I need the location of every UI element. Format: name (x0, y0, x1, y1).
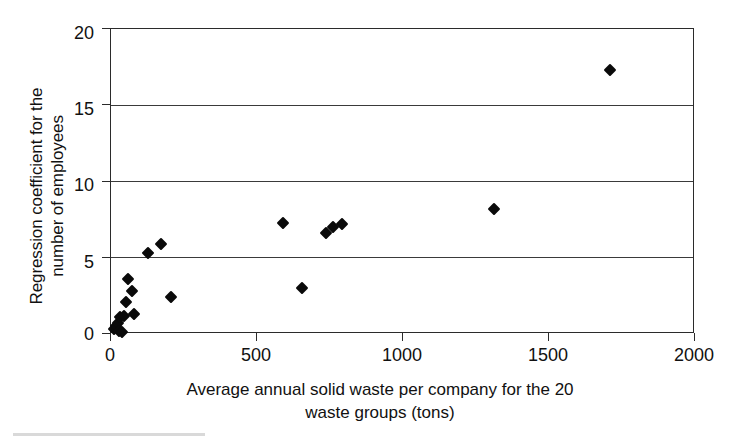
x-tick-label: 1000 (362, 346, 442, 364)
data-point-marker (126, 285, 139, 298)
data-point-marker (604, 64, 617, 77)
y-tick-mark (102, 28, 110, 29)
x-tick-label: 0 (70, 346, 150, 364)
x-tick-label: 1500 (508, 346, 588, 364)
x-axis-title: Average annual solid waste per company f… (60, 378, 700, 424)
x-tick-label: 2000 (654, 346, 734, 364)
data-point-marker (127, 308, 140, 321)
y-tick-label: 20 (36, 24, 94, 42)
scan-artifact (13, 433, 205, 436)
data-point-marker (487, 203, 500, 216)
x-tick-label: 500 (216, 346, 296, 364)
data-point-marker (120, 296, 133, 309)
scatter-chart-figure: Regression coefficient for the number of… (0, 0, 739, 440)
gridline-y10 (111, 181, 693, 182)
y-tick-mark (102, 257, 110, 258)
x-tick-mark (402, 333, 403, 341)
y-tick-label: 10 (36, 176, 94, 194)
data-point-marker (155, 238, 168, 251)
y-tick-mark (102, 104, 110, 105)
y-tick-mark (102, 181, 110, 182)
data-point-marker (122, 273, 135, 286)
gridline-y15 (111, 105, 693, 106)
plot-area (110, 28, 694, 333)
x-tick-mark (694, 333, 695, 341)
y-tick-label: 0 (36, 325, 94, 343)
data-point-marker (296, 282, 309, 295)
data-point-marker (277, 216, 290, 229)
x-tick-mark (548, 333, 549, 341)
x-tick-mark (256, 333, 257, 341)
y-tick-label: 15 (36, 100, 94, 118)
y-axis-title: Regression coefficient for the number of… (26, 31, 68, 361)
gridline-y5 (111, 257, 693, 258)
y-tick-mark (102, 333, 110, 334)
y-tick-label: 5 (36, 253, 94, 271)
data-point-marker (164, 291, 177, 304)
x-tick-mark (110, 333, 111, 341)
